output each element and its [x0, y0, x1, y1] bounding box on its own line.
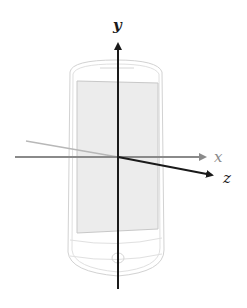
smartphone — [68, 60, 164, 276]
y-axis-label: y — [112, 16, 123, 34]
coordinate-diagram: x y z — [0, 0, 247, 308]
chin-line-1 — [70, 238, 162, 244]
chin-line-2 — [70, 254, 162, 260]
x-axis-label: x — [214, 148, 223, 166]
z-axis-label: z — [222, 169, 231, 187]
